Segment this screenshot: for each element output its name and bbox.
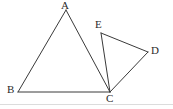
geometry-canvas [0,0,173,109]
vertex-label-e: E [95,19,102,30]
segment-AB [18,10,66,92]
geometry-figure: A B C D E [0,0,173,109]
vertex-label-b: B [7,84,14,95]
vertex-label-d: D [151,45,159,56]
vertex-label-c: C [106,93,113,104]
segment-DC [110,52,148,92]
vertex-label-a: A [61,0,69,11]
bottom-separator-rule [0,104,173,105]
segment-ED [101,33,148,52]
